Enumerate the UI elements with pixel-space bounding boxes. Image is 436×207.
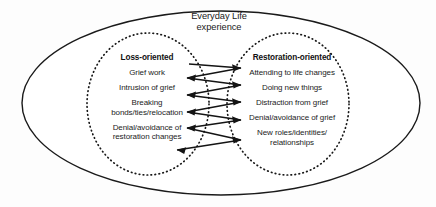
restoration-oriented-item-4: Denial/avoidance of grief	[233, 113, 351, 123]
restoration-oriented-heading: Restoration-oriented	[233, 53, 351, 62]
loss-oriented-item-1: Grief work	[88, 68, 206, 78]
restoration-oriented-item-3: Distraction from grief	[233, 98, 351, 108]
restoration-oriented-item-5: New roles/identities/ relationships	[233, 128, 351, 147]
restoration-oriented-item-2: Doing new things	[233, 83, 351, 93]
everyday-life-ellipse	[22, 11, 420, 195]
restoration-oriented-column: Restoration-oriented Attending to life c…	[233, 53, 351, 153]
loss-oriented-item-3: Breaking bonds/ties/relocation	[88, 98, 206, 117]
loss-oriented-heading: Loss-oriented	[88, 53, 206, 62]
page-title: Everyday Life experience	[154, 11, 284, 33]
loss-oriented-column: Loss-oriented Grief work Intrusion of gr…	[88, 53, 206, 148]
loss-oriented-item-2: Intrusion of grief	[88, 83, 206, 93]
restoration-oriented-item-1: Attending to life changes	[233, 68, 351, 78]
dual-process-model-diagram: Everyday Life experience Loss-oriented G…	[0, 0, 436, 207]
loss-oriented-item-4: Denial/avoidance of restoration changes	[88, 123, 206, 142]
